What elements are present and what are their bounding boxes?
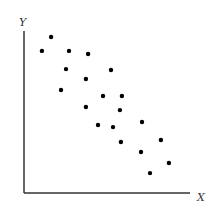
data-point	[40, 49, 44, 53]
data-point	[96, 123, 100, 127]
data-point	[59, 88, 63, 92]
points-layer	[40, 35, 171, 176]
data-point	[84, 77, 88, 81]
data-point	[64, 67, 68, 71]
data-point	[119, 140, 123, 144]
data-point	[86, 52, 90, 56]
x-axis-label: X	[196, 191, 206, 204]
data-point	[167, 161, 171, 165]
scatter-plot: Y X	[0, 0, 220, 211]
data-point	[139, 150, 143, 154]
data-point	[111, 125, 115, 129]
data-point	[101, 94, 105, 98]
data-point	[118, 108, 122, 112]
data-point	[148, 171, 152, 175]
data-point	[120, 94, 124, 98]
data-point	[84, 105, 88, 109]
data-point	[49, 35, 53, 39]
y-axis-label: Y	[19, 16, 28, 29]
data-point	[159, 138, 163, 142]
data-point	[140, 120, 144, 124]
data-point	[109, 68, 113, 72]
data-point	[67, 49, 71, 53]
